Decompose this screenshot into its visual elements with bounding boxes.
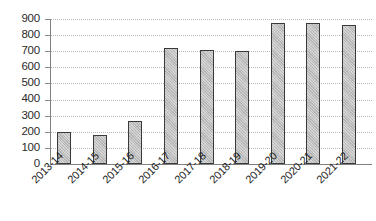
bar-2020-21 <box>306 23 320 164</box>
y-axis-tick-label: 100 <box>6 142 40 153</box>
y-axis-tick-label: 900 <box>6 13 40 24</box>
bar-2019-20 <box>271 23 285 164</box>
bar-2017-18 <box>200 50 214 164</box>
bar-2018-19 <box>235 51 249 164</box>
y-axis-tick-label: 700 <box>6 45 40 56</box>
bar-2016-17 <box>164 48 178 164</box>
bar-chart: 900 800 700 600 500 400 300 200 100 0 20… <box>0 0 376 221</box>
x-axis-line <box>50 164 372 165</box>
y-axis-tick-label: 800 <box>6 29 40 40</box>
y-axis-tick-label: 400 <box>6 93 40 104</box>
y-axis-tick-label: 0 <box>6 158 40 169</box>
y-axis-tick-label: 200 <box>6 126 40 137</box>
y-axis-tick-label: 600 <box>6 61 40 72</box>
gridline-800 <box>50 35 372 36</box>
y-axis-line <box>50 19 51 165</box>
bar-2021-22 <box>342 25 356 164</box>
gridline-900 <box>50 19 372 20</box>
y-axis-tick-label: 500 <box>6 77 40 88</box>
y-axis-tick-label: 300 <box>6 110 40 121</box>
